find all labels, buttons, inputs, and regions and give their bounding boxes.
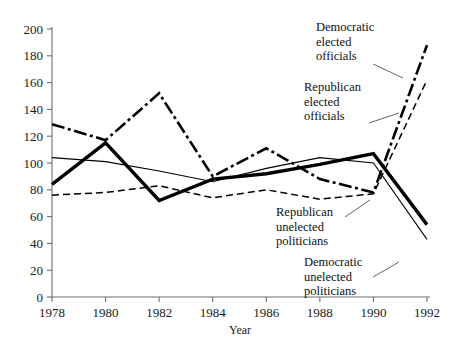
y-tick-label: 120 <box>24 129 44 144</box>
x-tick-label: 1988 <box>307 305 333 320</box>
y-tick-label: 80 <box>30 182 43 197</box>
series-label-republican-elected-officials: Republican elected officials <box>304 80 361 124</box>
y-tick-label: 40 <box>30 236 43 251</box>
series-line <box>52 143 427 225</box>
x-tick-label: 1986 <box>253 305 280 320</box>
y-tick-label: 160 <box>24 75 44 90</box>
x-tick-label: 1990 <box>360 305 386 320</box>
y-tick-label: 200 <box>24 22 44 37</box>
y-tick-label: 100 <box>24 156 44 171</box>
annotation-leader-line <box>345 200 370 217</box>
x-tick-label: 1978 <box>39 305 65 320</box>
y-tick-label: 20 <box>30 263 43 278</box>
line-chart: 020406080100120140160180200 197819801982… <box>0 0 454 363</box>
series-label-republican-unelected-politicians: Republican unelected politicians <box>276 205 333 249</box>
y-tick-label: 0 <box>37 290 44 305</box>
chart-plot-area: 020406080100120140160180200 197819801982… <box>0 0 454 363</box>
series-label-democratic-elected-officials: Democratic elected officials <box>316 20 374 64</box>
annotation-leader-line <box>373 64 403 78</box>
y-tick-label: 140 <box>24 102 44 117</box>
annotation-leader-line <box>373 262 399 277</box>
y-axis: 020406080100120140160180200 <box>24 22 53 305</box>
series-label-democratic-unelected-politicians: Democratic unelected politicians <box>304 255 362 299</box>
series-line <box>52 158 427 240</box>
x-axis-title: Year <box>229 323 251 337</box>
y-tick-label: 60 <box>30 209 43 224</box>
series-line <box>52 45 427 192</box>
x-tick-label: 1980 <box>93 305 119 320</box>
y-tick-label: 180 <box>24 48 44 63</box>
x-tick-label: 1992 <box>414 305 440 320</box>
series-lines <box>52 45 427 239</box>
x-tick-label: 1984 <box>200 305 227 320</box>
x-axis: 19781980198219841986198819901992 <box>39 297 440 320</box>
annotation-leader-line <box>369 113 399 123</box>
x-tick-label: 1982 <box>146 305 172 320</box>
